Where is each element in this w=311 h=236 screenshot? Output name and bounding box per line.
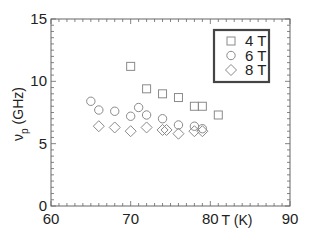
diamond-marker (93, 121, 104, 132)
y-axis-label-subscript: p (19, 128, 30, 134)
series-6t (87, 97, 207, 133)
diamond-marker (161, 124, 172, 135)
x-axis-label: T (K) (222, 212, 253, 228)
square-marker (143, 85, 151, 93)
y-tick-label: 15 (30, 10, 47, 27)
circle-marker (87, 97, 95, 105)
circle-marker (142, 111, 150, 119)
diamond-marker (109, 122, 120, 133)
y-tick-label: 0 (39, 197, 47, 214)
square-marker (174, 94, 182, 102)
x-tick-label: 90 (282, 210, 299, 227)
circle-marker (126, 112, 134, 120)
diamond-marker (141, 122, 152, 133)
legend-label: 8 T (245, 61, 266, 78)
square-marker (198, 102, 206, 110)
y-tick-label: 10 (30, 72, 47, 89)
diamond-marker (125, 126, 136, 137)
circle-marker (158, 115, 166, 123)
data-markers (87, 62, 223, 139)
legend: 4 T6 T8 T (214, 30, 269, 82)
scatter-chart: 60708090051015 T (K) νp(GHz) 4 T6 T8 T (0, 0, 311, 236)
diamond-marker (173, 128, 184, 139)
circle-marker (134, 103, 142, 111)
square-marker (127, 62, 135, 70)
circle-marker (111, 107, 119, 115)
diamond-marker (157, 124, 168, 135)
y-axis-label-units: (GHz) (10, 87, 26, 124)
y-axis-label-symbol: ν (10, 134, 26, 141)
x-tick-label: 80 (202, 210, 219, 227)
square-marker (159, 90, 167, 98)
svg-text:νp(GHz): νp(GHz) (10, 87, 30, 141)
circle-marker (95, 106, 103, 114)
y-axis-label: νp(GHz) (10, 87, 30, 141)
square-marker (190, 102, 198, 110)
y-tick-label: 5 (39, 135, 47, 152)
square-marker (214, 111, 222, 119)
x-tick-label: 70 (122, 210, 139, 227)
